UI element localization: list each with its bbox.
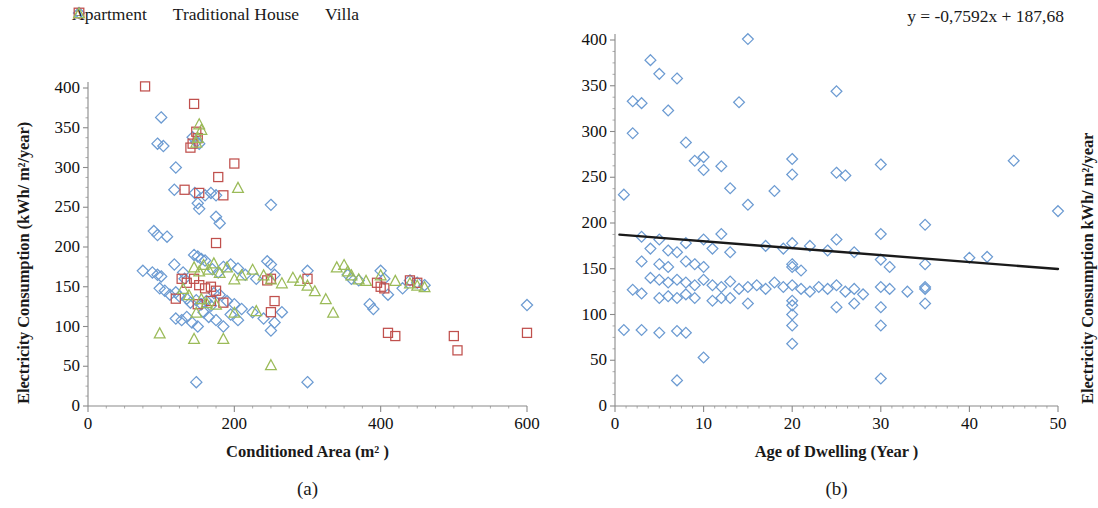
diamond-data-point — [618, 189, 629, 200]
diamond-data-point — [191, 377, 202, 388]
diamond-data-point — [875, 159, 886, 170]
y-axis-tick-label: 200 — [36, 237, 80, 257]
diamond-data-point — [884, 262, 895, 273]
diamond-data-point — [787, 154, 798, 165]
x-axis-label-panel-a: Conditioned Area (m² ) — [88, 442, 527, 462]
diamond-data-point — [636, 256, 647, 267]
diamond-data-point — [831, 234, 842, 245]
diamond-data-point — [743, 282, 754, 293]
diamond-data-point — [743, 34, 754, 45]
y-axis-tick-label: 350 — [36, 118, 80, 138]
trendline — [619, 235, 1058, 269]
diamond-data-point — [170, 162, 181, 173]
y-axis-tick-label: 0 — [36, 396, 80, 416]
x-axis-tick-label: 400 — [351, 414, 411, 434]
y-axis-tick-label: 400 — [36, 78, 80, 98]
x-axis-tick-label: 20 — [762, 414, 822, 434]
x-axis-tick-label: 0 — [585, 414, 645, 434]
triangle-data-point — [233, 182, 244, 192]
triangle-data-point — [218, 333, 229, 343]
diamond-data-point — [265, 325, 276, 336]
diamond-data-point — [663, 291, 674, 302]
x-axis-tick-label: 10 — [674, 414, 734, 434]
diamond-data-point — [158, 140, 169, 151]
diamond-data-point — [875, 229, 886, 240]
diamond-data-point — [262, 256, 273, 267]
diamond-data-point — [875, 282, 886, 293]
diamond-data-point — [716, 282, 727, 293]
diamond-data-point — [258, 313, 269, 324]
diamond-data-point — [716, 229, 727, 240]
diamond-data-point — [787, 320, 798, 331]
square-data-point — [219, 191, 228, 200]
y-axis-tick-label: 50 — [36, 356, 80, 376]
diamond-data-point — [645, 55, 656, 66]
diamond-data-point — [154, 283, 165, 294]
diamond-data-point — [152, 229, 163, 240]
y-axis-tick-label: 300 — [36, 158, 80, 178]
square-data-point — [214, 173, 223, 182]
y-axis-tick-label: 150 — [563, 259, 607, 279]
diamond-data-point — [920, 259, 931, 270]
diamond-data-point — [743, 199, 754, 210]
x-axis-label-panel-b: Age of Dwelling (Year ) — [615, 442, 1058, 462]
square-data-point — [522, 328, 531, 337]
x-axis-tick-label: 0 — [58, 414, 118, 434]
series-apartment — [137, 112, 532, 388]
diamond-data-point — [734, 97, 745, 108]
diamond-data-point — [636, 325, 647, 336]
triangle-data-point — [189, 262, 200, 272]
diamond-data-point — [884, 283, 895, 294]
diamond-data-point — [982, 251, 993, 262]
x-axis-tick-label: 200 — [204, 414, 264, 434]
diamond-data-point — [627, 96, 638, 107]
diamond-data-point — [698, 165, 709, 176]
diamond-data-point — [672, 247, 683, 258]
diamond-data-point — [645, 273, 656, 284]
diamond-data-point — [654, 293, 665, 304]
x-axis-tick-label: 40 — [939, 414, 999, 434]
triangle-data-point — [277, 278, 288, 288]
diamond-data-point — [302, 377, 313, 388]
diamond-data-point — [521, 299, 532, 310]
diamond-data-point — [265, 199, 276, 210]
square-data-point — [141, 82, 150, 91]
diamond-data-point — [787, 338, 798, 349]
triangle-data-point — [178, 283, 189, 293]
diamond-data-point — [902, 286, 913, 297]
diamond-data-point — [663, 105, 674, 116]
diamond-data-point — [707, 280, 718, 291]
diamond-data-point — [725, 247, 736, 258]
diamond-data-point — [831, 302, 842, 313]
diamond-data-point — [680, 327, 691, 338]
square-data-point — [180, 185, 189, 194]
diamond-data-point — [698, 234, 709, 245]
diamond-data-point — [192, 198, 203, 209]
diamond-data-point — [725, 276, 736, 287]
diamond-data-point — [169, 184, 180, 195]
diamond-data-point — [137, 265, 148, 276]
diamond-data-point — [194, 203, 205, 214]
diamond-data-point — [276, 307, 287, 318]
y-axis-tick-label: 250 — [563, 167, 607, 187]
series-apartment — [618, 34, 1063, 386]
diamond-data-point — [1053, 206, 1064, 217]
diamond-data-point — [725, 183, 736, 194]
diamond-data-point — [831, 86, 842, 97]
diamond-data-point — [152, 138, 163, 149]
diamond-data-point — [743, 298, 754, 309]
diamond-data-point — [849, 298, 860, 309]
diamond-data-point — [698, 352, 709, 363]
square-data-point — [449, 332, 458, 341]
square-data-point — [266, 308, 275, 317]
y-axis-tick-label: 250 — [36, 197, 80, 217]
diamond-data-point — [672, 375, 683, 386]
diamond-data-point — [156, 112, 167, 123]
diamond-data-point — [265, 259, 276, 270]
triangle-data-point — [320, 294, 331, 304]
triangle-data-point — [328, 307, 339, 317]
panel-b: y = -0,7592x + 187,68 Electricity Consum… — [532, 0, 1072, 508]
diamond-data-point — [875, 320, 886, 331]
diamond-data-point — [920, 219, 931, 230]
y-axis-tick-label: 200 — [563, 213, 607, 233]
